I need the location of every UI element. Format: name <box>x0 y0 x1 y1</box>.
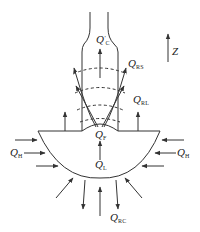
qrc-arrow-out-left <box>83 180 85 209</box>
label-ql: QL <box>95 159 107 171</box>
label-qrs: QRS <box>128 58 144 70</box>
qrc-arrow-in-right <box>125 178 142 198</box>
label-qc-prime: Q′C <box>96 34 110 46</box>
label-qrc: QRC <box>110 212 126 224</box>
flow-arrow-right-inner <box>102 86 124 127</box>
flow-arrow-left-inner <box>76 86 98 127</box>
qrc-arrow-out-right <box>116 180 118 209</box>
qrc-arrow-in-left <box>56 178 73 198</box>
label-qh-left: QH <box>10 147 23 159</box>
label-qh-right: QH <box>177 147 190 159</box>
heat-flow-diagram: Q′C QRS QRL QF QL QH QH QRC Z <box>0 0 200 232</box>
label-qf: QF <box>95 129 107 141</box>
label-qrl: QRL <box>133 94 149 106</box>
label-z-axis: Z <box>172 46 178 57</box>
